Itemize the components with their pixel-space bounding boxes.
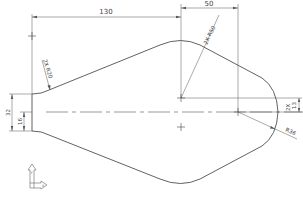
axis-y-label: Y [31, 171, 34, 175]
dimension-130[interactable]: 130 [32, 8, 181, 18]
dimension-32[interactable]: 32 [5, 94, 13, 131]
dimension-130-label: 130 [99, 8, 112, 16]
cad-drawing-canvas: 130 50 2X R50 2X R20 32 16 2X 13 [0, 0, 303, 198]
dimension-r20-label: 2X R20 [42, 58, 54, 79]
dimension-16[interactable]: 16 [17, 112, 25, 131]
dimension-13-label: 13 [291, 102, 297, 109]
dimension-r50[interactable]: 2X R50 [181, 15, 219, 98]
dimension-r36[interactable]: R36 [238, 112, 297, 139]
dimension-32-label: 32 [5, 109, 11, 116]
dimension-r36-label: R36 [285, 126, 298, 136]
dimension-r50-label: 2X R50 [202, 24, 216, 45]
dimension-50-label: 50 [205, 0, 214, 8]
center-marks [28, 32, 242, 131]
dimension-r20[interactable]: 2X R20 [42, 58, 54, 90]
axis-triad-icon: Y X [28, 164, 47, 189]
axis-x-label: X [42, 184, 45, 188]
dimension-16-label: 16 [17, 118, 23, 125]
dimension-50[interactable]: 50 [181, 0, 238, 9]
dimension-13[interactable]: 2X 13 [285, 98, 300, 112]
